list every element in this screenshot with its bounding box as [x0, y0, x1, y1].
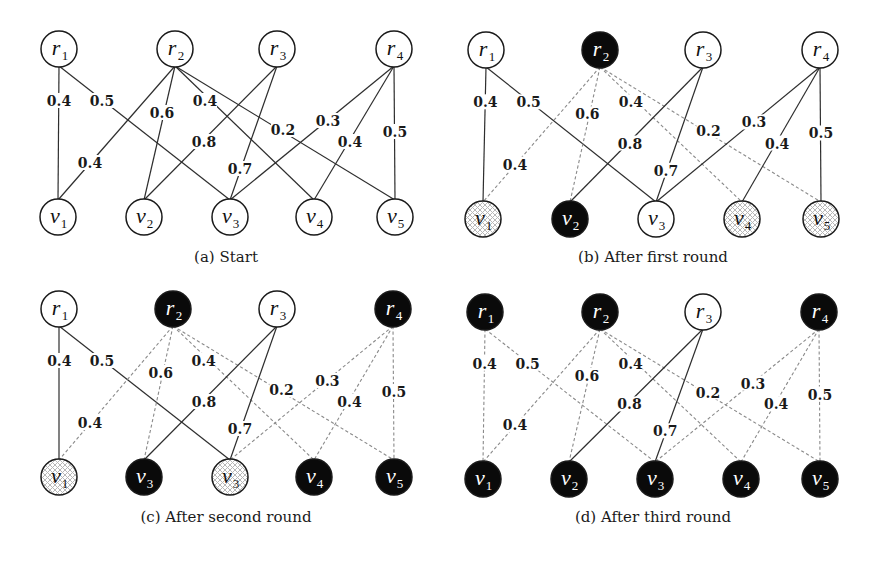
- node-label: v: [306, 203, 316, 228]
- node-label: r: [386, 295, 395, 320]
- edges: [58, 66, 395, 200]
- node-r3: r3: [685, 32, 721, 68]
- edge-weight-r1-v3: 0.5: [516, 356, 540, 372]
- edge-weight-r2-v2: 0.6: [150, 105, 174, 121]
- node-label: r: [166, 295, 175, 320]
- weight-labels: 0.40.50.40.60.40.20.80.70.30.40.5: [47, 353, 406, 437]
- node-subscript: 2: [178, 48, 185, 63]
- edge-r2-v2: [570, 67, 600, 202]
- node-r3: r3: [259, 291, 295, 327]
- edge-weight-r4-v3: 0.3: [741, 376, 765, 392]
- node-v3: v3: [212, 199, 248, 235]
- caption-c: (c) After second round: [141, 508, 312, 526]
- edge-r2-v1: [483, 329, 600, 462]
- edge-r1-v3: [59, 66, 230, 200]
- node-label: v: [733, 465, 743, 490]
- edge-weight-r1-v1: 0.4: [47, 93, 72, 109]
- node-subscript: 3: [233, 216, 240, 231]
- node-label: v: [647, 465, 657, 490]
- edge-r2-v2: [144, 326, 173, 460]
- node-subscript: 1: [62, 308, 69, 323]
- node-label: v: [136, 463, 146, 488]
- edge-r1-v1: [483, 67, 486, 202]
- node-label: v: [50, 203, 60, 228]
- node-subscript: 3: [280, 308, 287, 323]
- edge-weight-r4-v5: 0.5: [809, 125, 833, 141]
- edge-weight-r2-v1: 0.4: [503, 417, 528, 433]
- node-v1: v1: [465, 201, 501, 237]
- node-subscript: 1: [61, 216, 68, 231]
- node-v4: v4: [296, 199, 332, 235]
- figure-canvas: 0.40.50.40.60.40.20.80.70.30.40.5r1r2r3r…: [0, 0, 875, 566]
- edge-weight-r2-v4: 0.4: [191, 353, 216, 369]
- edge-weight-r2-v5: 0.2: [271, 122, 295, 138]
- node-label: r: [696, 298, 705, 323]
- panel-c: 0.40.50.40.60.40.20.80.70.30.40.5r1r2r3r…: [41, 291, 412, 526]
- node-label: v: [222, 203, 232, 228]
- node-subscript: 2: [603, 311, 610, 326]
- node-subscript: 2: [603, 49, 610, 64]
- node-subscript: 3: [233, 476, 240, 491]
- edges: [59, 326, 394, 460]
- edge-weight-r1-v1: 0.4: [473, 94, 498, 110]
- node-r4: r4: [376, 31, 412, 67]
- node-subscript: 1: [486, 218, 493, 233]
- node-label: v: [813, 205, 823, 230]
- edge-r4-v3: [230, 326, 393, 460]
- edge-weight-r2-v1: 0.4: [78, 415, 103, 431]
- node-v2: v3: [126, 459, 162, 495]
- node-r4: r4: [375, 291, 411, 327]
- edge-weight-r3-v2: 0.8: [192, 394, 216, 410]
- node-label: r: [479, 36, 488, 61]
- node-label: v: [387, 203, 397, 228]
- node-subscript: 2: [573, 218, 580, 233]
- edge-r2-v2: [569, 329, 600, 462]
- node-v4: v4: [296, 459, 332, 495]
- edge-r1-v3: [59, 326, 230, 460]
- edge-weight-r3-v2: 0.8: [617, 396, 641, 412]
- nodes: r1r2r3r4v1v2v3v4v5: [465, 32, 839, 237]
- node-v2: v2: [126, 199, 162, 235]
- node-subscript: 1: [489, 49, 496, 64]
- node-v1: v1: [41, 459, 77, 495]
- node-subscript: 4: [744, 478, 751, 493]
- edge-weight-r3-v2: 0.8: [192, 134, 216, 150]
- node-label: v: [51, 463, 61, 488]
- node-subscript: 3: [280, 48, 287, 63]
- nodes: r1r2r3r4v1v3v3v4v5: [41, 291, 412, 495]
- node-subscript: 3: [658, 478, 665, 493]
- edge-weight-r4-v5: 0.5: [383, 124, 407, 140]
- node-subscript: 3: [706, 49, 713, 64]
- node-subscript: 5: [824, 218, 831, 233]
- node-r2: r2: [582, 32, 618, 68]
- node-subscript: 5: [823, 478, 830, 493]
- node-subscript: 1: [62, 476, 69, 491]
- node-subscript: 2: [147, 216, 154, 231]
- node-subscript: 1: [488, 311, 495, 326]
- node-r1: r1: [41, 291, 77, 327]
- edge-weight-r4-v5: 0.5: [808, 387, 832, 403]
- node-label: v: [475, 205, 485, 230]
- node-label: v: [812, 465, 822, 490]
- node-label: r: [387, 35, 396, 60]
- edge-r2-v1: [58, 66, 175, 200]
- node-label: r: [270, 35, 279, 60]
- node-label: r: [813, 36, 822, 61]
- node-r4: r4: [802, 32, 838, 68]
- bipartite-matching-figure: 0.40.50.40.60.40.20.80.70.30.40.5r1r2r3r…: [0, 0, 875, 566]
- edge-weight-r2-v5: 0.2: [696, 123, 720, 139]
- node-subscript: 3: [147, 476, 154, 491]
- edge-weight-r4-v4: 0.4: [337, 394, 362, 410]
- edge-weight-r2-v2: 0.6: [575, 106, 599, 122]
- node-label: r: [52, 35, 61, 60]
- node-label: v: [136, 203, 146, 228]
- edge-r2-v1: [59, 326, 173, 460]
- edge-weight-r1-v3: 0.5: [90, 93, 114, 109]
- node-r2: r2: [157, 31, 193, 67]
- node-label: v: [734, 205, 744, 230]
- node-subscript: 1: [486, 478, 493, 493]
- node-label: r: [593, 298, 602, 323]
- node-r2: r2: [155, 291, 191, 327]
- node-v4: v4: [723, 461, 759, 497]
- node-label: v: [561, 465, 571, 490]
